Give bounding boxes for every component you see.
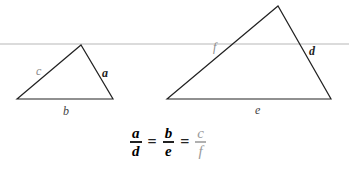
numerator: b (163, 125, 175, 141)
equals-sign: = (180, 133, 189, 151)
label-f: f (213, 41, 216, 53)
numerator: a (130, 125, 142, 141)
denominator: f (197, 143, 205, 159)
label-a: a (102, 67, 108, 79)
fraction-c-over-f: c f (195, 125, 206, 158)
label-d: d (309, 45, 315, 57)
small-triangle (17, 45, 113, 99)
label-e: e (255, 104, 260, 116)
proportion-equation: a d = b e = c f (128, 122, 208, 162)
label-b: b (63, 105, 69, 117)
numerator: c (195, 125, 206, 141)
fraction-a-over-d: a d (130, 125, 142, 158)
equals-sign: = (148, 133, 157, 151)
denominator: e (163, 143, 174, 159)
fraction-b-over-e: b e (163, 125, 175, 158)
denominator: d (130, 143, 142, 159)
large-triangle (167, 6, 331, 99)
label-c: c (36, 65, 41, 77)
